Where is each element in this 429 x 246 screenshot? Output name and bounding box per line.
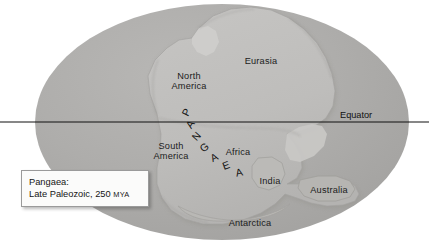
india-block [252, 157, 285, 190]
label-equator: Equator [340, 110, 408, 120]
caption-line-1: Pangaea: [29, 176, 148, 188]
caption-period-text: Late Paleozoic, 250 [29, 189, 113, 199]
pangaea-map-figure: North America Eurasia South America Afri… [0, 0, 429, 246]
caption-mya-unit: MYA [113, 190, 129, 199]
caption-box: Pangaea: Late Paleozoic, 250 MYA [21, 170, 149, 207]
caption-line-2: Late Paleozoic, 250 MYA [29, 188, 148, 201]
australia-block [298, 176, 355, 201]
map-canvas [0, 0, 429, 246]
